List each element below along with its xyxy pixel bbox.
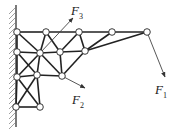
joint-node-icon [59, 73, 66, 80]
force-arrow-icon [147, 32, 165, 77]
joint-node-icon [109, 29, 116, 36]
truss-member [37, 75, 62, 76]
force-label: F2 [72, 93, 84, 110]
truss-member [37, 75, 40, 107]
truss-member [16, 77, 17, 107]
joint-node-icon [13, 104, 20, 111]
joint-node-icon [34, 72, 41, 79]
joint-node-icon [76, 29, 83, 36]
joint-node-icon [144, 29, 151, 36]
truss-member [17, 52, 37, 75]
truss-member [60, 51, 85, 52]
force-label: F3 [71, 4, 83, 21]
force-arrow-icon [62, 76, 85, 88]
truss-diagram [0, 0, 172, 132]
force-label: F1 [155, 83, 167, 100]
truss-member [17, 32, 40, 53]
truss-member [62, 51, 85, 76]
joint-node-icon [37, 50, 44, 57]
truss-member [60, 32, 79, 52]
truss-member [17, 77, 40, 107]
joint-node-icon [14, 74, 21, 81]
joint-node-icon [82, 48, 89, 55]
joint-node-icon [43, 29, 50, 36]
truss-member [85, 32, 147, 51]
truss-member [40, 53, 62, 76]
joint-node-icon [57, 49, 64, 56]
joint-node-icon [37, 104, 44, 111]
truss-member [85, 32, 112, 51]
joint-node-icon [14, 29, 21, 36]
joint-node-icon [14, 49, 21, 56]
